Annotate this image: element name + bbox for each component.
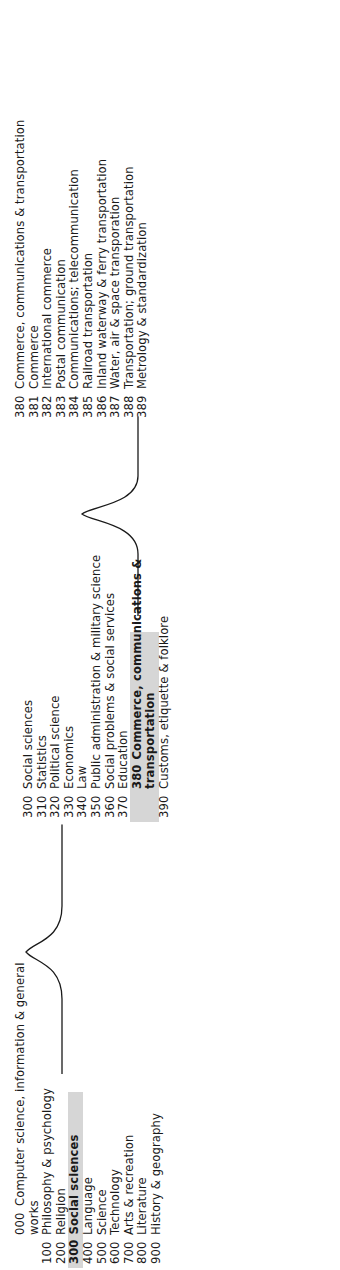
division-number: 390: [158, 794, 172, 818]
class-number: 200: [55, 1240, 69, 1264]
class-label-continued: works: [28, 1200, 42, 1235]
division-number: 360: [104, 794, 118, 818]
level-social-sciences-divisions: 300 Social sciences 310 Statistics 320 P…: [22, 555, 172, 818]
section-number: 381: [28, 394, 42, 418]
list-item[interactable]: 360 Social problems & social services: [104, 555, 118, 818]
level-commerce-sections: 380 Commerce, communications & transport…: [14, 120, 150, 418]
section-number: 383: [55, 394, 69, 418]
list-item[interactable]: 387 Water, air & space transporation: [109, 120, 123, 418]
section-number: 380: [14, 394, 28, 418]
division-number: 330: [63, 794, 77, 818]
section-number: 388: [123, 394, 137, 418]
class-label: Technology: [109, 1169, 123, 1235]
list-item[interactable]: 370 Education: [117, 555, 131, 818]
division-number: 380: [131, 764, 145, 789]
section-number: 386: [96, 394, 110, 418]
list-item[interactable]: 390 Customs, etiquette & folklore: [158, 555, 172, 818]
division-label-continued: transportation: [144, 692, 158, 789]
list-item[interactable]: 800 Literature: [136, 991, 150, 1264]
section-label: Communications; telecommunication: [68, 169, 82, 389]
division-label: Education: [117, 730, 131, 789]
list-item[interactable]: 382 International commerce: [41, 120, 55, 418]
list-item[interactable]: 340 Law: [76, 555, 90, 818]
section-label: Water, air & space transporation: [109, 197, 123, 389]
list-item[interactable]: 381 Commerce: [28, 120, 42, 418]
list-item[interactable]: 310 Statistics: [36, 555, 50, 818]
list-item[interactable]: 380 Commerce, communications & transport…: [14, 120, 28, 418]
list-item[interactable]: 350 Public administration & military sci…: [90, 555, 104, 818]
class-number: 000: [14, 1211, 28, 1235]
class-number: 900: [150, 1240, 164, 1264]
division-number: 340: [76, 794, 90, 818]
class-label: Language: [82, 1177, 96, 1235]
division-label: Law: [76, 766, 90, 789]
class-number: 600: [109, 1240, 123, 1264]
class-number: 300: [68, 1239, 82, 1264]
class-label: Arts & recreation: [123, 1135, 137, 1235]
list-item[interactable]: 300 Social sciences: [22, 555, 36, 818]
section-number: 389: [136, 394, 150, 418]
list-item[interactable]: 385 Railroad transportation: [82, 120, 96, 418]
division-label: Statistics: [36, 735, 50, 789]
class-label: Religion: [55, 1188, 69, 1235]
list-item[interactable]: 400 Language: [82, 991, 96, 1264]
section-number: 387: [109, 394, 123, 418]
class-label: History & geography: [150, 1113, 164, 1235]
section-number: 385: [82, 394, 96, 418]
section-label: Transportation; ground transportation: [123, 166, 137, 389]
division-label: Commerce, communications &: [131, 559, 145, 760]
list-item[interactable]: 600 Technology: [109, 991, 123, 1264]
list-item[interactable]: 388 Transportation; ground transportatio…: [123, 120, 137, 418]
list-item[interactable]: 386 Inland waterway & ferry transportati…: [96, 120, 110, 418]
division-number: 310: [36, 794, 50, 818]
section-label: Inland waterway & ferry transportation: [96, 159, 110, 389]
class-label: Philosophy & psychology: [41, 1088, 55, 1235]
dewey-hierarchy-diagram: 000 Computer science, information & gene…: [0, 0, 340, 1270]
division-label: Social problems & social services: [104, 593, 118, 789]
list-item-selected[interactable]: 300 Social sciences: [68, 991, 82, 1264]
class-number: 500: [96, 1240, 110, 1264]
class-number: 400: [82, 1240, 96, 1264]
division-number: 370: [117, 794, 131, 818]
list-item[interactable]: 100 Philosophy & psychology: [41, 991, 55, 1264]
section-label: Railroad transportation: [82, 253, 96, 389]
class-number: 800: [136, 1240, 150, 1264]
section-number: 384: [68, 394, 82, 418]
division-number: 320: [49, 794, 63, 818]
section-label: Commerce, communications & transportatio…: [14, 120, 28, 389]
list-item[interactable]: 700 Arts & recreation: [123, 991, 137, 1264]
section-number: 382: [41, 394, 55, 418]
list-item[interactable]: 320 Political science: [49, 555, 63, 818]
section-label: Postal communication: [55, 259, 69, 389]
division-label: Social sciences: [22, 700, 36, 789]
list-item[interactable]: 383 Postal communication: [55, 120, 69, 418]
class-number: 100: [41, 1240, 55, 1264]
section-label: International commerce: [41, 248, 55, 389]
class-label: Science: [96, 1189, 110, 1235]
class-label: Literature: [136, 1177, 150, 1235]
division-label: Customs, etiquette & folklore: [158, 616, 172, 789]
list-item-selected[interactable]: 380 Commerce, communications & transport…: [131, 555, 158, 818]
section-label: Metrology & standardization: [136, 222, 150, 389]
list-item[interactable]: 200 Religion: [55, 991, 69, 1264]
division-label: Public administration & military science: [90, 555, 104, 789]
division-label: Economics: [63, 726, 77, 789]
division-number: 350: [90, 794, 104, 818]
section-label: Commerce: [28, 325, 42, 389]
list-item[interactable]: 384 Communications; telecommunication: [68, 120, 82, 418]
class-number: 700: [123, 1240, 137, 1264]
list-item[interactable]: 000 Computer science, information & gene…: [14, 991, 41, 1264]
class-label: Social sciences: [68, 1134, 82, 1234]
division-number: 300: [22, 794, 36, 818]
level-main-classes: 000 Computer science, information & gene…: [14, 991, 164, 1264]
division-label: Political science: [49, 695, 63, 789]
list-item[interactable]: 900 History & geography: [150, 991, 164, 1264]
class-label: Computer science, information & general: [14, 962, 28, 1206]
list-item[interactable]: 389 Metrology & standardization: [136, 120, 150, 418]
list-item[interactable]: 330 Economics: [63, 555, 77, 818]
list-item[interactable]: 500 Science: [96, 991, 110, 1264]
